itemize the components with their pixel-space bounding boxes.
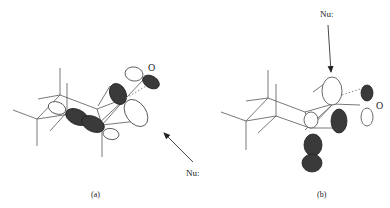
panel-b: O Nu: (b) bbox=[221, 9, 383, 199]
p-orbital-lobe-shaded bbox=[302, 154, 322, 172]
p-orbital-lobe-open bbox=[322, 77, 342, 105]
nucleophile-arrow-a bbox=[164, 133, 193, 162]
p-orbital-lobe-open bbox=[46, 99, 67, 116]
p-orbital-lobe-open bbox=[304, 112, 318, 128]
nucleophile-label-a: Nu: bbox=[186, 168, 200, 178]
p-orbital-lobe-open bbox=[102, 127, 120, 141]
caption-a: (a) bbox=[91, 190, 100, 199]
nucleophile-arrow-b bbox=[328, 25, 331, 72]
nucleophile-label-b: Nu: bbox=[320, 9, 334, 19]
caption-b: (b) bbox=[317, 190, 327, 199]
p-orbital-lobe-shaded bbox=[331, 109, 347, 133]
oxygen-lobe-shaded bbox=[361, 85, 373, 101]
oxygen-lobe-open bbox=[361, 108, 373, 126]
oxygen-label-a: O bbox=[148, 62, 155, 73]
oxygen-lobe-shaded bbox=[140, 72, 162, 91]
p-orbital-lobe-shaded bbox=[304, 134, 322, 156]
orbital-diagram: O Nu: (a) bbox=[0, 0, 390, 208]
panel-a: O Nu: (a) bbox=[13, 62, 200, 199]
p-orbital-lobe-open bbox=[124, 66, 144, 83]
oxygen-label-b: O bbox=[376, 100, 383, 111]
